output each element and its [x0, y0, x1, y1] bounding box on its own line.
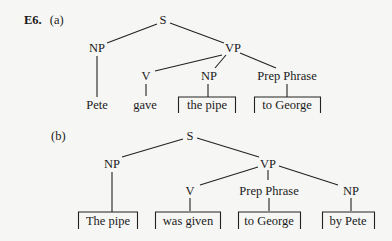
- tree-b-leaf-to-george: to George: [244, 214, 293, 228]
- tree-a-node-prep-phrase: Prep Phrase: [257, 69, 316, 83]
- subfigure-label-a: (a): [50, 13, 64, 27]
- tree-a-node-s: S: [160, 13, 167, 27]
- tree-a-leaf-the-pipe: the pipe: [187, 98, 227, 112]
- tree-a-node-vp: VP: [225, 41, 241, 55]
- tree-b-node-np-agent: NP: [343, 184, 359, 198]
- tree-b-leaf-the-pipe: The pipe: [86, 214, 130, 228]
- exercise-number: E6.: [24, 13, 42, 27]
- tree-b-leaf-by-pete: by Pete: [329, 214, 366, 228]
- diagram-canvas: E6.(a) S NP VP V NP Prep Phrase Pete gav…: [0, 0, 392, 241]
- tree-a-node-v: V: [141, 69, 150, 83]
- tree-a-leaf-gave: gave: [133, 98, 157, 112]
- tree-b-node-prep-phrase: Prep Phrase: [239, 184, 298, 198]
- exercise-label-a: E6.(a): [24, 13, 64, 27]
- tree-a-node-np-subject: NP: [89, 41, 105, 55]
- tree-a-leaf-pete: Pete: [86, 98, 108, 112]
- subfigure-label-b: (b): [51, 129, 66, 143]
- tree-b-node-vp: VP: [260, 157, 276, 171]
- tree-b-leaf-was-given: was given: [163, 214, 213, 228]
- tree-b-node-v: V: [185, 184, 194, 198]
- tree-a-node-np-object: NP: [201, 69, 217, 83]
- tree-b-node-s: S: [187, 129, 194, 143]
- tree-edges: [0, 0, 392, 241]
- tree-b-node-np-subject: NP: [104, 157, 120, 171]
- tree-a-leaf-to-george: to George: [262, 98, 311, 112]
